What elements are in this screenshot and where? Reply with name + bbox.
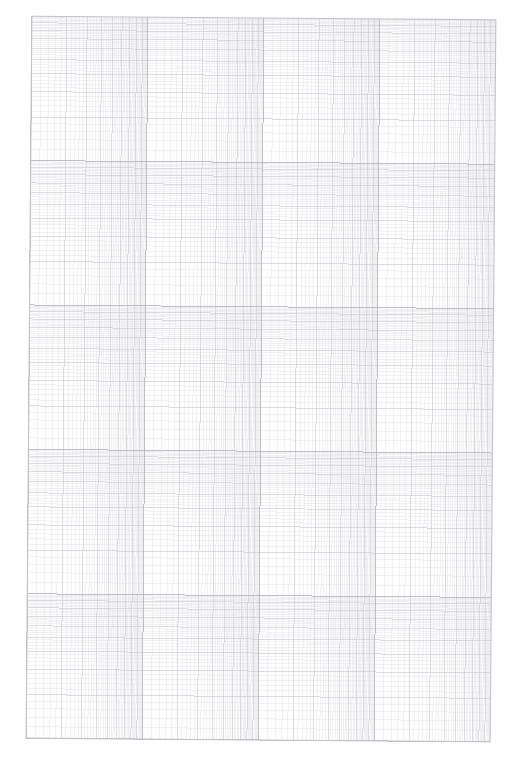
log-log-grid (0, 0, 514, 780)
graph-paper-sheet (0, 0, 514, 780)
